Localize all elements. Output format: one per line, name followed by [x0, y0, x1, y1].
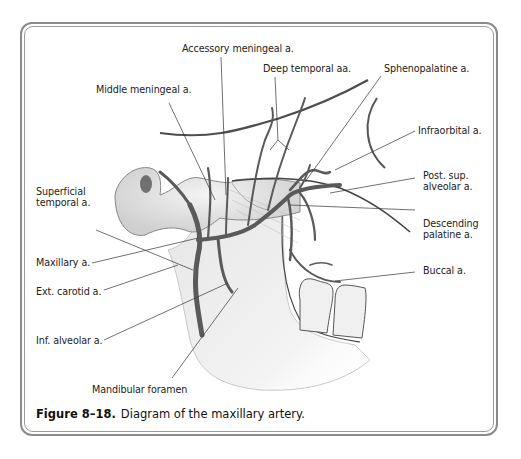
- label-inf-alveolar: Inf. alveolar a.: [36, 335, 103, 346]
- label-infraorbital: Infraorbital a.: [418, 125, 481, 136]
- orbit-contour: [368, 98, 385, 168]
- teeth: [299, 279, 366, 338]
- label-sphenopalatine: Sphenopalatine a.: [384, 63, 469, 74]
- figure-caption-text: Diagram of the maxillary artery.: [121, 407, 305, 421]
- label-descending-palatine: Descending palatine a.: [423, 218, 478, 240]
- label-maxillary: Maxillary a.: [36, 257, 90, 268]
- label-superficial-temporal: Superficial temporal a.: [36, 186, 90, 208]
- label-accessory-meningeal: Accessory meningeal a.: [182, 43, 294, 54]
- label-post-sup-alveolar: Post. sup. alveolar a.: [423, 170, 472, 192]
- label-mandibular-foramen: Mandibular foramen: [92, 384, 187, 395]
- label-middle-meningeal: Middle meningeal a.: [96, 84, 191, 95]
- figure-number: Figure 8–18.: [36, 407, 116, 421]
- figure-caption: Figure 8–18.Diagram of the maxillary art…: [36, 407, 305, 421]
- label-buccal: Buccal a.: [423, 265, 466, 276]
- label-ext-carotid: Ext. carotid a.: [36, 286, 101, 297]
- label-deep-temporal: Deep temporal aa.: [263, 63, 351, 74]
